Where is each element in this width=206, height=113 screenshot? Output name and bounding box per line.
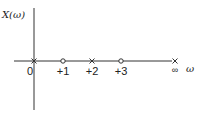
- zero-circle-icon: [61, 59, 65, 63]
- pole-zero-diagram: X(ω) ω 0+1+2+3∞: [0, 0, 206, 113]
- marker-label: 0: [27, 65, 33, 77]
- x-axis-label: ω: [186, 63, 194, 74]
- marker-label: +1: [57, 65, 70, 77]
- marker-label: +3: [115, 65, 128, 77]
- zero-circle-icon: [119, 59, 123, 63]
- pole-marker: ∞: [172, 59, 178, 76]
- marker-label: +2: [86, 65, 99, 77]
- y-axis-label: X(ω): [1, 9, 25, 20]
- zero-marker: +3: [115, 59, 128, 77]
- marker-label: ∞: [172, 65, 178, 75]
- zero-marker: +1: [57, 59, 70, 77]
